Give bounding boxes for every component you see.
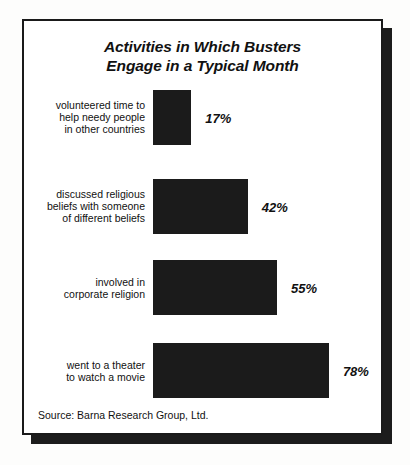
bar-value-label: 55% [291, 280, 317, 295]
bar-chart-plot-area: volunteered time to help needy people in… [24, 85, 381, 405]
bar-category-label: involved in corporate religion [35, 275, 145, 300]
bar-category-label: volunteered time to help needy people in… [35, 99, 145, 136]
bar-fill [153, 260, 277, 315]
bar-row: discussed religious beliefs with someone… [24, 179, 381, 234]
bar-label-line: volunteered time to [56, 99, 145, 111]
chart-panel-inner: Activities in Which Busters Engage in a … [24, 21, 381, 433]
chart-panel: Activities in Which Busters Engage in a … [22, 19, 383, 435]
bar-value-label: 78% [343, 363, 369, 378]
bar-label-line: in other countries [64, 124, 145, 136]
chart-title-line-2: Engage in a Typical Month [24, 56, 381, 75]
bar-label-line: to watch a movie [66, 371, 145, 383]
bar-row: involved in corporate religion 55% [24, 260, 381, 315]
bar-label-line: help needy people [59, 111, 145, 123]
bar-label-line: of different beliefs [62, 213, 145, 225]
bar-fill [153, 90, 191, 145]
bar-category-label: went to a theater to watch a movie [35, 358, 145, 383]
bar-row: volunteered time to help needy people in… [24, 90, 381, 145]
chart-title-line-1: Activities in Which Busters [24, 37, 381, 56]
chart-page: Activities in Which Busters Engage in a … [0, 0, 410, 465]
bar-track: 55% [153, 260, 381, 315]
bar-value-label: 42% [262, 199, 288, 214]
bar-fill [153, 343, 329, 398]
bar-category-label: discussed religious beliefs with someone… [35, 188, 145, 225]
bar-value-label: 17% [205, 110, 231, 125]
bar-label-line: went to a theater [67, 358, 145, 370]
bar-label-line: corporate religion [64, 288, 145, 300]
bar-label-line: involved in [95, 275, 145, 287]
bar-track: 42% [153, 179, 381, 234]
bar-track: 17% [153, 90, 381, 145]
bar-track: 78% [153, 343, 381, 398]
chart-title: Activities in Which Busters Engage in a … [24, 37, 381, 75]
bar-label-line: beliefs with someone [47, 200, 145, 212]
bar-fill [153, 179, 248, 234]
source-note: Source: Barna Research Group, Ltd. [38, 409, 208, 421]
bar-row: went to a theater to watch a movie 78% [24, 343, 381, 398]
bar-label-line: discussed religious [56, 188, 145, 200]
